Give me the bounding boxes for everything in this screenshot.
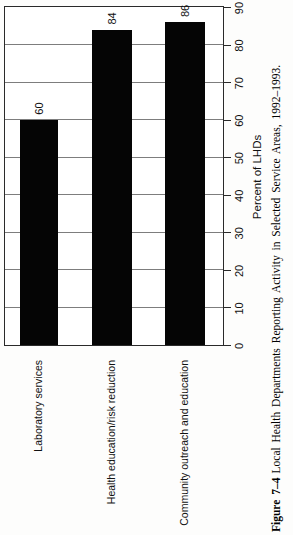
- bar-1: [20, 120, 58, 345]
- tick-mark-60: [223, 120, 231, 121]
- tick-mark-10: [223, 307, 231, 308]
- tick-mark-0: [223, 345, 231, 346]
- tick-mark-80: [223, 45, 231, 46]
- tick-label-60: 60: [233, 106, 245, 136]
- tick-label-70: 70: [233, 68, 245, 98]
- figure-rotated: Percent of LHDs Figure 7–4Local Health D…: [0, 0, 293, 535]
- tick-label-30: 30: [233, 218, 245, 248]
- bar-3: [165, 22, 205, 345]
- tick-mark-20: [223, 270, 231, 271]
- plot-area: [4, 6, 224, 346]
- tick-mark-70: [223, 82, 231, 83]
- category-label-3: Community outreach and education: [178, 360, 191, 535]
- tick-label-40: 40: [233, 181, 245, 211]
- tick-label-10: 10: [233, 293, 245, 323]
- tick-mark-40: [223, 195, 231, 196]
- tick-label-80: 80: [233, 31, 245, 61]
- tick-label-50: 50: [233, 143, 245, 173]
- bar-value-1: 60: [33, 102, 45, 114]
- value-axis-title: Percent of LHDs: [251, 8, 263, 346]
- category-label-2: Health education/risk reduction: [105, 360, 118, 535]
- bar-value-3: 86: [179, 5, 191, 17]
- scanned-page: Percent of LHDs Figure 7–4Local Health D…: [0, 0, 293, 535]
- bar-value-2: 84: [106, 12, 118, 24]
- category-label-1: Laboratory services: [32, 360, 45, 535]
- bar-2: [92, 30, 132, 345]
- tick-label-20: 20: [233, 256, 245, 286]
- tick-mark-50: [223, 157, 231, 158]
- tick-mark-90: [223, 7, 231, 8]
- tick-label-90: 90: [233, 0, 245, 23]
- tick-label-0: 0: [233, 331, 245, 361]
- figure-caption-text: Local Health Departments Reporting Activ…: [270, 65, 282, 474]
- tick-mark-30: [223, 232, 231, 233]
- figure-caption: Figure 7–4Local Health Departments Repor…: [269, 1, 284, 532]
- figure-caption-number: Figure 7–4: [270, 478, 282, 533]
